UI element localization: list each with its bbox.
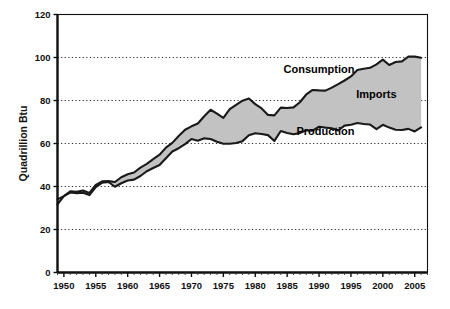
y-axis-title: Quadrillion Btu: [17, 106, 29, 182]
y-tick-label-40: 40: [40, 181, 51, 192]
y-tick-label-20: 20: [40, 224, 51, 235]
x-tick-label-2005: 2005: [404, 280, 426, 291]
y-tick-label-120: 120: [35, 9, 51, 20]
x-tick-label-2000: 2000: [372, 280, 393, 291]
x-tick-label-1980: 1980: [245, 280, 266, 291]
series-label-consumption: Consumption: [284, 63, 355, 75]
x-tick-label-1955: 1955: [85, 280, 107, 291]
series-label-production: Production: [296, 125, 354, 137]
y-tick-label-60: 60: [40, 138, 51, 149]
energy-overview-chart: 0204060801001201950195519601965197019751…: [0, 0, 450, 309]
y-tick-label-100: 100: [35, 52, 51, 63]
plot-background: [58, 15, 428, 273]
x-tick-label-1990: 1990: [308, 280, 329, 291]
x-tick-label-1985: 1985: [277, 280, 299, 291]
y-tick-label-80: 80: [40, 95, 51, 106]
x-tick-label-1975: 1975: [213, 280, 235, 291]
x-tick-label-1950: 1950: [53, 280, 74, 291]
x-tick-label-1960: 1960: [117, 280, 138, 291]
y-tick-label-0: 0: [45, 267, 50, 278]
x-tick-label-1965: 1965: [149, 280, 171, 291]
series-label-imports: Imports: [356, 88, 396, 100]
x-tick-label-1995: 1995: [340, 280, 362, 291]
chart-canvas: 0204060801001201950195519601965197019751…: [0, 0, 450, 309]
x-tick-label-1970: 1970: [181, 280, 202, 291]
